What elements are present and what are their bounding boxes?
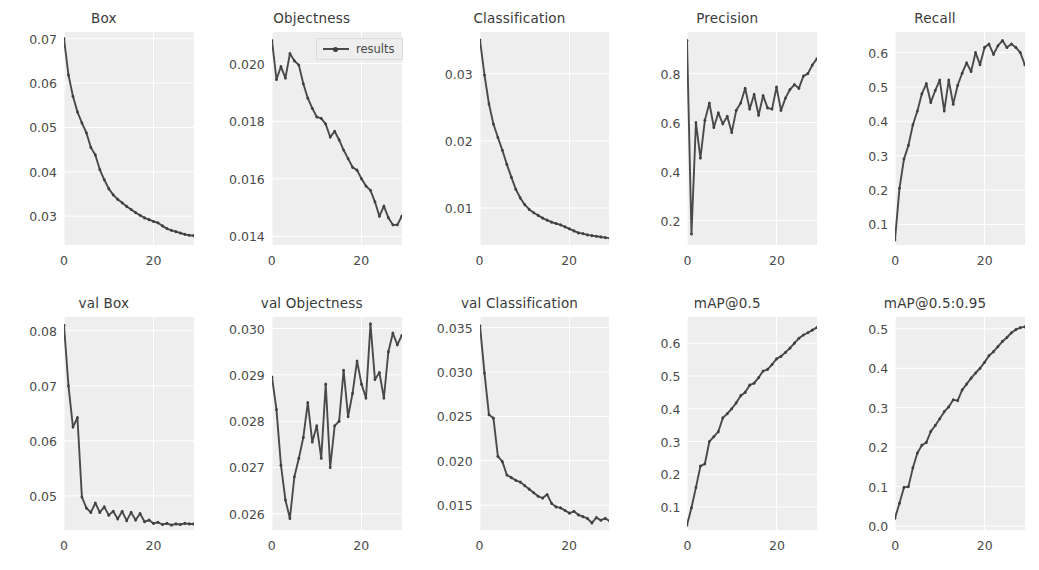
series-results-line	[64, 325, 194, 525]
x-tick-label: 20	[769, 253, 785, 268]
plot-area: 0.010.020.03020	[480, 32, 610, 245]
series-canvas	[64, 317, 194, 530]
subplot-title: val Box	[0, 295, 208, 311]
y-tick-label: 0.5	[868, 79, 888, 94]
series-results-line	[272, 41, 402, 225]
subplot-box: Box0.030.040.050.060.07020	[0, 0, 208, 285]
plot-area: 0.0260.0270.0280.0290.030020	[272, 317, 402, 530]
legend[interactable]: results	[316, 38, 404, 60]
x-tick-label: 20	[146, 538, 162, 553]
x-tick-label: 20	[977, 253, 993, 268]
subplot-val-classification: val Classification0.0150.0200.0250.0300.…	[416, 285, 624, 570]
subplot-val-box: val Box0.050.060.070.08020	[0, 285, 208, 570]
plot-area: 0.0150.0200.0250.0300.035020	[480, 317, 610, 530]
y-tick-label: 0.028	[229, 414, 265, 429]
y-tick-label: 0.08	[29, 323, 57, 338]
y-tick-label: 0.6	[868, 45, 888, 60]
plot-area: 0.0140.0160.0180.020020results	[272, 32, 402, 245]
subplot-title: val Objectness	[208, 295, 416, 311]
x-tick-label: 20	[353, 253, 369, 268]
series-results-line	[895, 327, 1025, 518]
y-tick-label: 0.1	[661, 500, 681, 515]
series-results-markers	[895, 325, 1025, 520]
subplot-title: Recall	[831, 10, 1039, 26]
subplot-map-0-5-0-95: mAP@0.5:0.950.00.10.20.30.40.5020	[831, 285, 1039, 570]
y-tick-label: 0.4	[661, 401, 681, 416]
y-tick-label: 0.06	[29, 76, 57, 91]
y-tick-label: 0.02	[445, 133, 473, 148]
y-tick-label: 0.1	[868, 217, 888, 232]
x-tick-label: 20	[561, 253, 577, 268]
x-tick-label: 20	[561, 538, 577, 553]
x-tick-label: 20	[353, 538, 369, 553]
subplot-title: mAP@0.5	[623, 295, 831, 311]
series-results-markers	[895, 39, 1025, 241]
y-tick-label: 0.03	[445, 66, 473, 81]
y-tick-label: 0.020	[229, 56, 265, 71]
y-tick-label: 0.029	[229, 367, 265, 382]
series-canvas	[64, 32, 194, 245]
y-tick-label: 0.05	[29, 120, 57, 135]
y-tick-label: 0.5	[661, 368, 681, 383]
y-tick-label: 0.030	[437, 365, 473, 380]
x-tick-label: 20	[769, 538, 785, 553]
series-results-line	[687, 41, 817, 234]
y-tick-label: 0.018	[229, 114, 265, 129]
y-tick-label: 0.025	[437, 409, 473, 424]
x-tick-label: 0	[476, 253, 484, 268]
subplot-map-0-5: mAP@0.50.10.20.30.40.50.6020	[623, 285, 831, 570]
subplot-classification: Classification0.010.020.03020	[416, 0, 624, 285]
y-tick-label: 0.07	[29, 378, 57, 393]
y-tick-label: 0.027	[229, 460, 265, 475]
y-tick-label: 0.6	[661, 115, 681, 130]
x-tick-label: 0	[60, 253, 68, 268]
subplot-title: Objectness	[208, 10, 416, 26]
y-tick-label: 0.3	[868, 400, 888, 415]
y-tick-label: 0.3	[868, 148, 888, 163]
series-results-markers	[687, 326, 817, 527]
series-results-line	[895, 41, 1025, 240]
series-canvas	[272, 32, 402, 245]
y-tick-label: 0.05	[29, 488, 57, 503]
series-canvas	[480, 32, 610, 245]
subplot-title: val Classification	[416, 295, 624, 311]
series-results-line	[64, 39, 194, 236]
x-tick-label: 0	[268, 538, 276, 553]
series-canvas	[480, 317, 610, 530]
y-tick-label: 0.1	[868, 479, 888, 494]
y-tick-label: 0.2	[661, 467, 681, 482]
subplot-recall: Recall0.10.20.30.40.50.6020	[831, 0, 1039, 285]
y-tick-label: 0.2	[868, 440, 888, 455]
y-tick-label: 0.2	[868, 183, 888, 198]
subplot-title: Precision	[623, 10, 831, 26]
y-tick-label: 0.4	[868, 114, 888, 129]
y-tick-label: 0.6	[661, 336, 681, 351]
series-canvas	[895, 32, 1025, 245]
y-tick-label: 0.07	[29, 31, 57, 46]
y-tick-label: 0.015	[437, 498, 473, 513]
y-tick-label: 0.026	[229, 506, 265, 521]
y-tick-label: 0.3	[661, 434, 681, 449]
subplot-title: Classification	[416, 10, 624, 26]
plot-area: 0.050.060.070.08020	[64, 317, 194, 530]
x-tick-label: 0	[268, 253, 276, 268]
x-tick-label: 20	[977, 538, 993, 553]
subplot-title: Box	[0, 10, 208, 26]
y-tick-label: 0.03	[29, 209, 57, 224]
series-results-line	[480, 326, 610, 523]
series-canvas	[895, 317, 1025, 530]
y-tick-label: 0.035	[437, 320, 473, 335]
series-canvas	[687, 32, 817, 245]
series-canvas	[687, 317, 817, 530]
series-results-markers	[272, 39, 402, 226]
plot-area: 0.030.040.050.060.07020	[64, 32, 194, 245]
y-tick-label: 0.01	[445, 201, 473, 216]
x-tick-label: 0	[476, 538, 484, 553]
subplot-objectness: Objectness0.0140.0160.0180.020020results	[208, 0, 416, 285]
x-tick-label: 20	[146, 253, 162, 268]
y-tick-label: 0.5	[868, 321, 888, 336]
y-tick-label: 0.8	[661, 66, 681, 81]
subplot-val-objectness: val Objectness0.0260.0270.0280.0290.0300…	[208, 285, 416, 570]
subplot-precision: Precision0.20.40.60.8020	[623, 0, 831, 285]
subplot-title: mAP@0.5:0.95	[831, 295, 1039, 311]
